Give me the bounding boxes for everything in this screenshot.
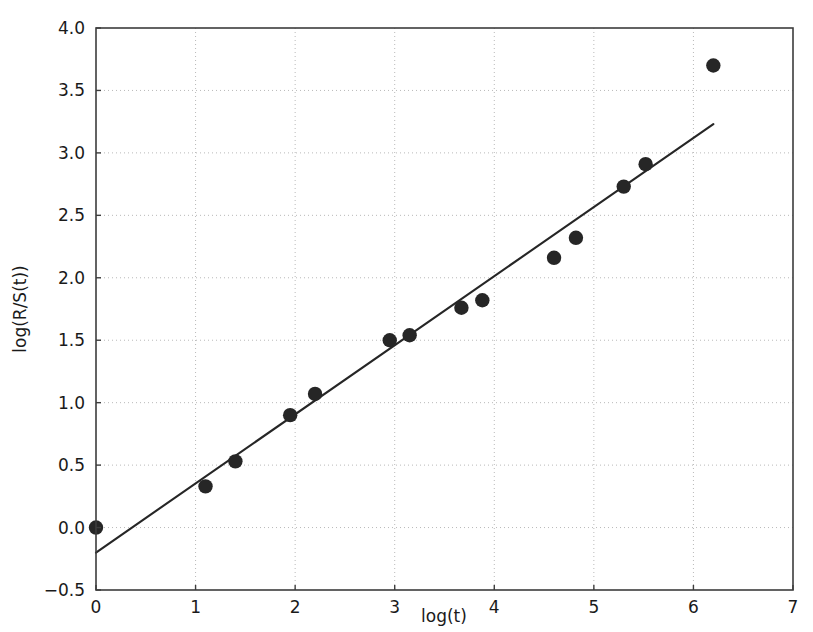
y-tick-label: 3.5 — [58, 80, 85, 100]
gridlines-group — [96, 28, 793, 590]
data-point — [198, 479, 212, 493]
data-point — [454, 301, 468, 315]
x-tick-label: 5 — [588, 597, 599, 617]
data-point — [383, 333, 397, 347]
axes-frame — [96, 28, 793, 590]
y-tick-label: 0.0 — [58, 518, 85, 538]
data-point — [308, 387, 322, 401]
x-tick-label: 3 — [389, 597, 400, 617]
x-axis-label: log(t) — [421, 606, 467, 626]
data-point — [638, 157, 652, 171]
rs-scaling-scatter-plot: 01234567−0.50.00.51.01.52.02.53.03.54.0 … — [0, 0, 813, 632]
y-tick-label: 2.0 — [58, 268, 85, 288]
data-point — [283, 408, 297, 422]
x-tick-label: 7 — [788, 597, 799, 617]
tick-marks-group — [96, 28, 793, 590]
y-tick-label: 1.5 — [58, 330, 85, 350]
y-axis-label: log(R/S(t)) — [10, 265, 30, 352]
data-point — [475, 293, 489, 307]
x-tick-label: 4 — [489, 597, 500, 617]
data-point — [569, 231, 583, 245]
y-tick-label: −0.5 — [44, 580, 85, 600]
x-tick-label: 0 — [91, 597, 102, 617]
plot-frame — [96, 28, 793, 590]
data-points-group — [89, 58, 721, 534]
x-tick-label: 2 — [290, 597, 301, 617]
data-point — [706, 58, 720, 72]
data-point — [617, 179, 631, 193]
x-tick-label: 1 — [190, 597, 201, 617]
y-tick-label: 2.5 — [58, 205, 85, 225]
data-point — [402, 328, 416, 342]
data-point — [547, 251, 561, 265]
y-tick-label: 0.5 — [58, 455, 85, 475]
y-tick-label: 4.0 — [58, 18, 85, 38]
x-tick-label: 6 — [688, 597, 699, 617]
data-point — [228, 454, 242, 468]
y-tick-label: 1.0 — [58, 393, 85, 413]
y-tick-label: 3.0 — [58, 143, 85, 163]
figure-canvas: 01234567−0.50.00.51.01.52.02.53.03.54.0 … — [0, 0, 813, 632]
